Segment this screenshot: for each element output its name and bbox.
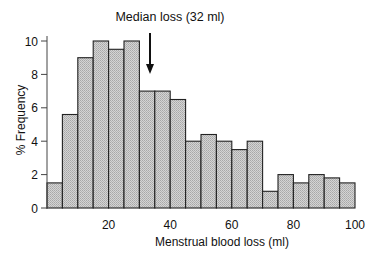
y-tick-label: 6 [31,101,38,115]
x-tick-label: 80 [287,218,301,232]
y-tick-label: 4 [31,135,38,149]
x-axis-label: Menstrual blood loss (ml) [155,235,289,249]
y-tick-label: 8 [31,68,38,82]
histogram-bar [139,91,154,208]
y-tick-label: 2 [31,168,38,182]
x-tick-label: 100 [345,218,365,232]
histogram-bar [232,150,247,208]
median-arrow-head-icon [146,64,154,74]
histogram-bar [247,141,262,208]
x-tick-label: 40 [164,218,178,232]
histogram-bar [109,49,124,208]
histogram-bar [340,183,355,208]
x-tick-labels: 20406080100 [102,218,365,232]
histogram-chart: 0246810 20406080100 % Frequency Menstrua… [0,0,381,259]
histogram-bar [293,183,308,208]
histogram-bar [155,91,170,208]
histogram-bar [201,135,216,209]
histogram-bar [309,175,324,208]
histogram-bar [263,191,278,208]
x-tick-label: 60 [225,218,239,232]
histogram-bar [93,41,108,208]
y-axis-label: % Frequency [14,85,28,156]
x-tick-label: 20 [102,218,116,232]
y-tick-label: 10 [25,35,39,49]
histogram-bar [186,141,201,208]
y-tick-label: 0 [31,202,38,216]
histogram-bars [47,41,355,208]
histogram-bar [62,115,77,209]
histogram-bar [124,41,139,208]
histogram-bar [278,175,293,208]
median-label: Median loss (32 ml) [115,10,224,24]
histogram-bar [78,58,93,208]
histogram-bar [170,100,185,209]
histogram-bar [47,183,62,208]
histogram-bar [324,178,339,208]
histogram-bar [216,141,231,208]
